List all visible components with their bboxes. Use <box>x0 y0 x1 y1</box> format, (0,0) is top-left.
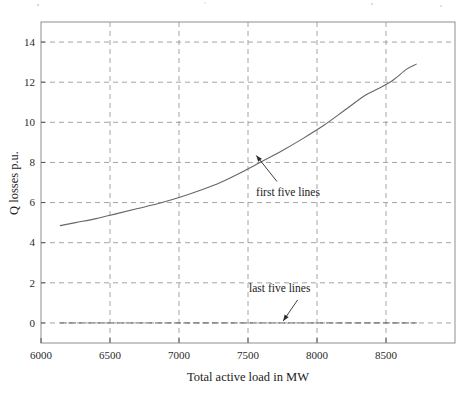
x-tick-label: 6000 <box>30 349 53 361</box>
x-tick-label: 7500 <box>237 349 260 361</box>
y-tick-label: 14 <box>24 36 36 48</box>
y-tick-label: 4 <box>30 236 36 248</box>
x-tick-label: 8000 <box>306 349 329 361</box>
y-axis-title: Q losses p.u. <box>7 151 21 215</box>
x-tick-label: 6500 <box>99 349 122 361</box>
x-tick-label: 8500 <box>375 349 398 361</box>
x-tick-labels: 600065007000750080008500 <box>30 349 398 361</box>
line-chart: 02468101214 600065007000750080008500 fir… <box>0 0 470 394</box>
y-tick-label: 12 <box>24 76 35 88</box>
y-tick-label: 6 <box>30 196 36 208</box>
x-tick-label: 7000 <box>168 349 191 361</box>
figure-container: 02468101214 600065007000750080008500 fir… <box>0 0 470 394</box>
y-tick-labels: 02468101214 <box>24 36 36 329</box>
y-tick-label: 2 <box>30 277 36 289</box>
y-tick-label: 0 <box>30 317 36 329</box>
annotation-label: first five lines <box>256 186 320 198</box>
y-tick-label: 10 <box>24 116 36 128</box>
x-axis-title: Total active load in MW <box>187 370 309 384</box>
annotation-label: last five lines <box>249 282 311 294</box>
y-tick-label: 8 <box>30 156 36 168</box>
